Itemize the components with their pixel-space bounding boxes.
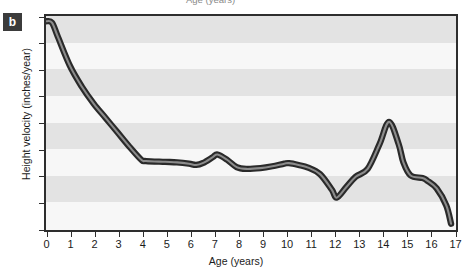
x-axis-tick [263,232,264,237]
x-axis-tick [431,232,432,237]
y-axis-tick [39,176,44,177]
x-axis-tick-label: 9 [252,239,274,250]
x-axis-tick-label: 10 [276,239,298,250]
x-axis-tick-label: 7 [204,239,226,250]
plot-area [44,14,458,232]
clipped-caption-text: Age (years) [186,0,235,5]
x-axis-tick-label: 2 [84,239,106,250]
x-axis-title: Age (years) [0,255,472,267]
x-axis-tick-label: 8 [228,239,250,250]
x-axis-tick [335,232,336,237]
x-axis-tick [383,232,384,237]
x-axis-tick [456,232,457,237]
x-axis-tick-label: 4 [132,239,154,250]
y-axis-tick [39,230,44,231]
y-axis-tick [39,17,44,18]
x-axis-tick-label: 3 [108,239,130,250]
x-axis-tick [143,232,144,237]
x-axis-tick [239,232,240,237]
height-velocity-curve [46,16,456,230]
x-axis-tick [167,232,168,237]
x-axis-tick [215,232,216,237]
x-axis-tick-label: 15 [396,239,418,250]
y-axis-tick [39,203,44,204]
x-axis-tick [359,232,360,237]
x-axis-tick-label: 0 [36,239,58,250]
x-axis-tick [407,232,408,237]
x-axis-tick-label: 6 [180,239,202,250]
x-axis-tick [191,232,192,237]
x-axis-tick-label: 5 [156,239,178,250]
y-axis-tick [39,150,44,151]
figure-panel-b: Age (years) b Height velocity (inches/ye… [0,0,472,269]
x-axis-tick-label: 13 [348,239,370,250]
panel-label-text: b [9,16,16,28]
x-axis-tick [311,232,312,237]
clipped-caption-above: Age (years) [0,0,472,7]
y-axis-title: Height velocity (inches/year) [20,4,32,224]
y-axis-tick [39,123,44,124]
x-axis-tick-label: 16 [420,239,442,250]
x-axis-tick-label: 17 [445,239,467,250]
x-axis-tick-label: 14 [372,239,394,250]
x-axis-tick [71,232,72,237]
x-axis-tick-label: 11 [300,239,322,250]
x-axis-tick [95,232,96,237]
x-axis-tick [119,232,120,237]
y-axis-tick [39,70,44,71]
y-axis-tick [39,43,44,44]
x-axis-tick-label: 1 [60,239,82,250]
y-axis-tick [39,96,44,97]
x-axis-tick [287,232,288,237]
x-axis-tick [47,232,48,237]
x-axis-tick-label: 12 [324,239,346,250]
